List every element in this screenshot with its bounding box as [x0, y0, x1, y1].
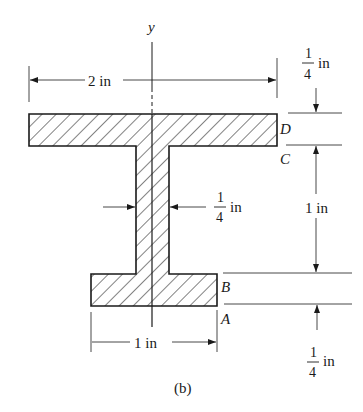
- web-thickness-label: 1 4 in: [214, 190, 242, 225]
- point-label-b: B: [221, 279, 230, 295]
- bottom-flange-thickness-label: 1 4 in: [307, 345, 335, 380]
- bottom-flange-width-label: 1 in: [134, 335, 157, 351]
- svg-text:4: 4: [216, 210, 223, 225]
- top-flange-thickness-label: 1 4 in: [302, 46, 330, 82]
- svg-text:in: in: [318, 55, 330, 71]
- svg-text:1: 1: [305, 46, 312, 61]
- top-flange-width-dimension: [29, 58, 277, 102]
- svg-text:in: in: [230, 199, 242, 215]
- svg-text:in: in: [323, 353, 335, 369]
- web-height-label: 1 in: [305, 200, 328, 216]
- point-label-c: C: [280, 151, 291, 167]
- svg-text:4: 4: [309, 365, 316, 380]
- figure-caption: (b): [174, 380, 192, 397]
- svg-text:1: 1: [310, 345, 317, 360]
- point-label-a: A: [220, 311, 231, 327]
- point-label-d: D: [279, 121, 291, 137]
- i-beam-cross-section-diagram: y 2 in 1 4 in 1 in 1 4 in: [0, 0, 363, 412]
- top-flange-width-label: 2 in: [88, 73, 111, 89]
- svg-text:1: 1: [217, 190, 224, 205]
- svg-text:4: 4: [304, 67, 311, 82]
- y-axis-label: y: [146, 19, 155, 35]
